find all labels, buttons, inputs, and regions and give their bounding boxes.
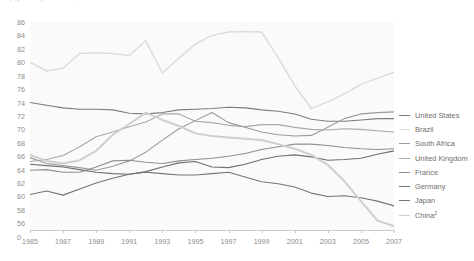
legend-line-swatch-icon [399, 200, 410, 201]
x-axis-tick-label: 2007 [386, 237, 402, 246]
x-axis-tick-label: 2005 [353, 237, 369, 246]
y-axis-zero-label: 0 [17, 233, 21, 242]
plot-area [30, 22, 394, 230]
x-axis-tick [96, 230, 97, 233]
y-axis-tick-label: 84 [17, 31, 25, 40]
chart-figure: Employment/Population ratio, 1985 to 200… [0, 0, 474, 261]
legend-item-united-kingdom[interactable]: United Kingdom [399, 151, 473, 165]
legend-item-germany[interactable]: Germany [399, 179, 473, 193]
legend-line-swatch-icon [399, 172, 410, 173]
legend-item-japan[interactable]: Japan [399, 194, 473, 208]
y-axis-tick-label: 74 [17, 98, 25, 107]
legend-item-label: Brazil [415, 125, 433, 134]
y-axis-tick-label: 58 [17, 205, 25, 214]
legend-line-swatch-icon [399, 143, 410, 144]
series-line-brazil [30, 31, 394, 108]
legend-item-brazil[interactable]: Brazil [399, 122, 473, 136]
y-axis-tick-label: 72 [17, 111, 25, 120]
x-axis-tick [129, 230, 130, 233]
y-axis-tick-label: 62 [17, 179, 25, 188]
legend-item-label: United Kingdom [415, 154, 468, 163]
x-axis-tick [394, 230, 395, 233]
legend-footnote-marker: 2 [434, 210, 437, 216]
y-axis-tick-label: 64 [17, 165, 25, 174]
series-line-united-states [30, 103, 394, 122]
x-axis-tick-label: 1993 [154, 237, 170, 246]
chart-title-clipped: Employment/Population ratio, 1985 to 200… [0, 0, 474, 6]
y-axis: 86848280787674727068666462605856 [0, 22, 28, 230]
x-axis-tick [229, 230, 230, 233]
x-axis-tick [295, 230, 296, 233]
legend-item-united-states[interactable]: United States [399, 108, 473, 122]
x-axis-line [30, 230, 394, 231]
x-axis-tick-label: 2001 [287, 237, 303, 246]
x-axis-tick-label: 1991 [121, 237, 137, 246]
legend-item-label: China2 [415, 210, 437, 220]
series-line-germany [30, 151, 394, 174]
series-lines [30, 22, 394, 230]
legend-item-label: France [415, 168, 438, 177]
y-axis-tick-label: 60 [17, 192, 25, 201]
x-axis-tick-label: 1999 [254, 237, 270, 246]
x-axis: 1985198719891991199319951997199920012003… [30, 230, 394, 254]
y-axis-tick-label: 86 [17, 18, 25, 27]
y-axis-tick-label: 78 [17, 71, 25, 80]
x-axis-tick [262, 230, 263, 233]
legend-line-swatch-icon [399, 158, 410, 159]
x-axis-tick-label: 1987 [55, 237, 71, 246]
x-axis-tick [195, 230, 196, 233]
legend-item-label: Germany [415, 182, 445, 191]
x-axis-tick-label: 1985 [22, 237, 38, 246]
y-axis-tick-label: 80 [17, 58, 25, 67]
legend-line-swatch-icon [399, 115, 410, 116]
x-axis-tick-label: 1995 [187, 237, 203, 246]
x-axis-tick [361, 230, 362, 233]
x-axis-tick-label: 2003 [320, 237, 336, 246]
legend-item-label: United States [415, 111, 459, 120]
y-axis-tick-label: 56 [17, 219, 25, 228]
series-line-south-africa [30, 112, 394, 170]
x-axis-tick-label: 1989 [88, 237, 104, 246]
x-axis-tick [30, 230, 31, 233]
chart-legend: United StatesBrazilSouth AfricaUnited Ki… [399, 108, 473, 222]
y-axis-tick-label: 76 [17, 85, 25, 94]
legend-item-china[interactable]: China2 [399, 208, 473, 222]
legend-line-swatch-icon [399, 215, 410, 216]
x-axis-tick-label: 1997 [221, 237, 237, 246]
y-axis-tick-label: 66 [17, 152, 25, 161]
x-axis-tick [63, 230, 64, 233]
legend-line-swatch-icon [399, 129, 410, 130]
y-axis-tick-label: 68 [17, 138, 25, 147]
x-axis-tick [328, 230, 329, 233]
y-axis-tick-label: 70 [17, 125, 25, 134]
y-axis-tick-label: 82 [17, 44, 25, 53]
legend-item-south-africa[interactable]: South Africa [399, 137, 473, 151]
legend-line-swatch-icon [399, 186, 410, 187]
page-title: Employment/Population ratio, 1985 to 200… [2, 0, 108, 1]
x-axis-tick [162, 230, 163, 233]
legend-item-label: South Africa [415, 139, 455, 148]
legend-item-france[interactable]: France [399, 165, 473, 179]
legend-item-label: Japan [415, 196, 435, 205]
